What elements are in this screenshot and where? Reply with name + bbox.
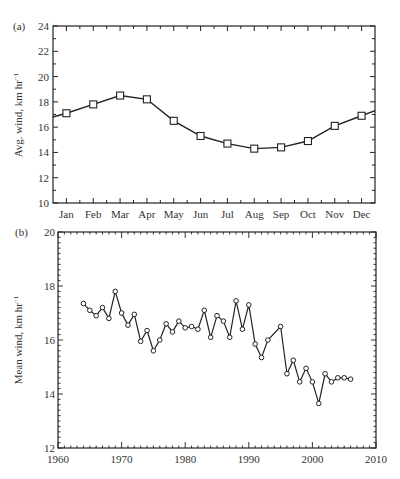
x-axis-b: 196019701980199020002010 [47, 232, 388, 465]
data-point-circle [310, 380, 315, 385]
data-point-circle [297, 380, 302, 385]
y-tick-label: 20 [44, 226, 56, 238]
y-tick-label: 24 [38, 20, 50, 32]
x-tick-label: Sep [273, 208, 290, 220]
data-point-circle [113, 289, 118, 294]
chart-b: (b) 1214161820 196019701980199020002010 … [12, 226, 388, 465]
data-point-circle [208, 335, 213, 340]
x-tick-label: Mar [111, 208, 130, 220]
data-point-square [358, 112, 365, 119]
data-point-square [251, 145, 258, 152]
data-point-circle [164, 322, 169, 327]
data-point-circle [100, 305, 105, 310]
data-point-circle [227, 335, 232, 340]
caption-fragment [200, 468, 400, 478]
plot-frame-b [58, 232, 376, 448]
data-point-circle [138, 339, 143, 344]
x-axis-a: JanFebMarAprMayJunJulAugSepOctNovDec [59, 26, 370, 220]
data-point-square [224, 140, 231, 147]
y-tick-label: 16 [38, 121, 50, 133]
y-tick-label: 18 [44, 280, 56, 292]
data-point-circle [234, 299, 239, 304]
y-tick-label: 22 [38, 45, 49, 57]
data-point-circle [183, 326, 188, 331]
y-tick-label: 20 [38, 71, 50, 83]
data-point-circle [88, 308, 93, 313]
data-point-circle [291, 358, 296, 363]
data-point-circle [329, 380, 334, 385]
x-tick-label: Jan [59, 208, 74, 220]
plot-frame-a [53, 26, 375, 203]
x-tick-label: 1970 [111, 453, 134, 465]
data-point-square [331, 122, 338, 129]
data-point-circle [259, 355, 264, 360]
data-point-circle [278, 324, 283, 329]
y-tick-label: 14 [44, 388, 56, 400]
data-point-square [278, 144, 285, 151]
x-tick-label: Aug [245, 208, 264, 220]
data-point-circle [145, 328, 150, 333]
x-tick-label: 2000 [301, 453, 324, 465]
data-point-square [304, 138, 311, 145]
x-tick-label: Oct [300, 208, 316, 220]
data-point-circle [215, 313, 220, 318]
data-point-circle [157, 338, 162, 343]
data-point-square [197, 132, 204, 139]
x-tick-label: 2010 [365, 453, 388, 465]
x-tick-label: Apr [138, 208, 155, 220]
data-point-circle [336, 376, 341, 381]
x-tick-label: 1990 [238, 453, 261, 465]
data-point-circle [247, 303, 252, 308]
series-monthly-wind [53, 92, 375, 152]
data-point-square [117, 92, 124, 99]
data-point-circle [342, 376, 347, 381]
data-point-circle [253, 342, 258, 347]
data-point-circle [177, 319, 182, 324]
y-axis-title-a: Avg. wind, km hr−1 [12, 72, 24, 157]
data-point-square [90, 101, 97, 108]
data-point-circle [240, 327, 245, 332]
data-point-circle [196, 327, 201, 332]
data-point-circle [81, 301, 86, 306]
data-point-circle [94, 313, 99, 318]
y-tick-label: 16 [44, 334, 56, 346]
data-point-circle [119, 311, 124, 316]
x-tick-label: Feb [85, 208, 102, 220]
data-point-square [143, 96, 150, 103]
data-point-circle [348, 377, 353, 382]
data-point-circle [266, 338, 271, 343]
y-tick-label: 10 [38, 197, 50, 209]
data-point-circle [170, 330, 175, 335]
chart-a: (a) 1012141618202224 JanFebMarAprMayJunJ… [12, 20, 375, 220]
y-axis-a: 1012141618202224 [38, 20, 375, 209]
x-tick-label: May [164, 208, 185, 220]
y-axis-title-b: Mean wind, km hr−1 [12, 295, 24, 384]
y-tick-label: 12 [38, 172, 49, 184]
panel-label-a: (a) [13, 20, 26, 33]
data-point-circle [107, 316, 112, 321]
x-tick-label: Jun [193, 208, 209, 220]
data-point-circle [323, 371, 328, 376]
series-annual-wind [81, 289, 353, 406]
x-tick-label: Dec [353, 208, 371, 220]
data-point-square [170, 117, 177, 124]
y-tick-label: 18 [38, 96, 50, 108]
data-point-circle [151, 349, 156, 354]
x-tick-label: Jul [221, 208, 234, 220]
data-point-circle [221, 319, 226, 324]
data-point-circle [304, 366, 309, 371]
x-tick-label: Nov [325, 208, 344, 220]
data-point-circle [285, 371, 290, 376]
data-point-circle [316, 401, 321, 406]
y-tick-label: 14 [38, 146, 50, 158]
data-point-circle [126, 323, 131, 328]
x-tick-label: 1980 [174, 453, 197, 465]
data-point-circle [202, 308, 207, 313]
data-point-circle [189, 324, 194, 329]
data-point-square [63, 110, 70, 117]
x-tick-label: 1960 [47, 453, 70, 465]
data-point-circle [132, 312, 137, 317]
figure: (a) 1012141618202224 JanFebMarAprMayJunJ… [0, 0, 400, 479]
panel-label-b: (b) [15, 226, 28, 239]
